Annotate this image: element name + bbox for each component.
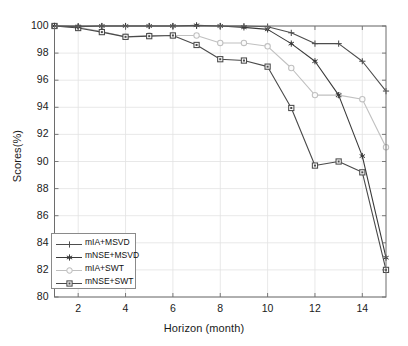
legend-label: mIA+MSVD: [85, 237, 130, 247]
y-tick-label: 84: [17, 236, 49, 248]
data-point-marker: [241, 40, 246, 45]
data-point-marker: [218, 57, 223, 62]
legend-marker-icon: [65, 240, 74, 249]
x-tick-label: 2: [63, 302, 93, 314]
y-tick-label: 98: [17, 46, 49, 58]
data-point-marker: [147, 34, 152, 39]
legend-marker-icon: [65, 253, 74, 262]
legend-label: mIA+SWT: [85, 263, 124, 273]
data-point-marker: [312, 92, 317, 97]
data-point-marker: [289, 41, 294, 47]
y-tick-label: 80: [17, 290, 49, 302]
data-point-marker: [67, 268, 72, 273]
x-axis-title: Horizon (month): [0, 322, 408, 334]
data-point-marker: [123, 34, 128, 39]
x-tick-label: 8: [205, 302, 235, 314]
line-chart-canvas: [0, 0, 408, 346]
x-tick-label: 6: [158, 302, 188, 314]
data-point-marker: [170, 33, 175, 38]
y-tick-label: 100: [17, 19, 49, 31]
data-point-marker: [265, 64, 270, 69]
x-tick-label: 4: [111, 302, 141, 314]
legend-item-mnse-swt: mNSE+SWT: [54, 277, 136, 291]
data-point-marker: [360, 153, 365, 159]
x-tick-label: 14: [347, 302, 377, 314]
data-point-marker: [66, 241, 72, 247]
data-point-marker: [360, 170, 365, 175]
data-point-marker: [194, 33, 199, 38]
data-point-marker: [99, 29, 104, 34]
data-point-marker: [67, 281, 72, 286]
legend-label: mNSE+SWT: [85, 276, 133, 286]
legend-marker-icon: [65, 279, 74, 288]
chart-figure: 10098969492908886848280 2468101214 Horiz…: [0, 0, 408, 346]
y-tick-label: 82: [17, 263, 49, 275]
data-point-marker: [67, 254, 72, 260]
data-point-marker: [218, 40, 223, 45]
x-tick-label: 12: [300, 302, 330, 314]
x-tick-label: 10: [253, 302, 283, 314]
y-tick-label: 96: [17, 73, 49, 85]
data-point-marker: [289, 65, 294, 70]
chart-legend: mIA+MSVDmNSE+MSVDmIA+SWTmNSE+SWT: [51, 233, 136, 289]
legend-label: mNSE+MSVD: [85, 250, 139, 260]
data-point-marker: [241, 58, 246, 63]
data-point-marker: [265, 44, 270, 49]
data-point-marker: [312, 41, 318, 47]
y-axis-title: Scores(%): [11, 101, 23, 211]
data-point-marker: [360, 96, 365, 101]
data-point-marker: [194, 42, 199, 47]
data-point-marker: [312, 163, 317, 168]
data-point-marker: [336, 159, 341, 164]
legend-marker-icon: [65, 266, 74, 275]
data-point-marker: [288, 30, 294, 36]
data-point-marker: [289, 105, 294, 110]
